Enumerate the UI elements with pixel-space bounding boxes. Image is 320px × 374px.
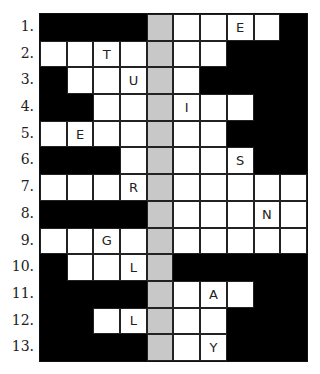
black-cell — [254, 94, 281, 121]
black-cell — [200, 254, 227, 281]
grid-cell[interactable]: R — [120, 174, 147, 201]
highlight-cell[interactable] — [147, 201, 174, 228]
grid-cell[interactable]: G — [93, 228, 120, 255]
grid-cell[interactable] — [227, 281, 254, 308]
highlight-cell[interactable] — [147, 67, 174, 94]
row-number: 1. — [0, 13, 34, 40]
black-cell — [280, 334, 307, 361]
grid-cell[interactable]: E — [227, 14, 254, 41]
grid-cell[interactable] — [173, 334, 200, 361]
grid-cell[interactable] — [173, 67, 200, 94]
grid-cell[interactable] — [254, 174, 281, 201]
grid-cell[interactable] — [200, 41, 227, 68]
black-cell — [173, 254, 200, 281]
highlight-cell[interactable] — [147, 308, 174, 335]
grid-cell[interactable] — [173, 147, 200, 174]
grid-cell[interactable] — [254, 228, 281, 255]
grid-cell[interactable] — [93, 67, 120, 94]
grid-cell[interactable] — [173, 121, 200, 148]
row-number: 5. — [0, 120, 34, 147]
row-number: 4. — [0, 93, 34, 120]
highlight-cell[interactable] — [147, 228, 174, 255]
grid-cell[interactable] — [67, 254, 94, 281]
grid-cell[interactable] — [67, 41, 94, 68]
grid-cell[interactable] — [200, 94, 227, 121]
highlight-cell[interactable] — [147, 121, 174, 148]
black-cell — [67, 94, 94, 121]
grid-cell[interactable] — [40, 41, 67, 68]
grid-cell[interactable] — [173, 41, 200, 68]
black-cell — [254, 67, 281, 94]
black-cell — [254, 308, 281, 335]
highlight-cell[interactable] — [147, 254, 174, 281]
grid-cell[interactable] — [173, 14, 200, 41]
grid-cell[interactable]: S — [227, 147, 254, 174]
grid-cell[interactable] — [40, 174, 67, 201]
row-number: 6. — [0, 146, 34, 173]
grid-cell[interactable]: Y — [200, 334, 227, 361]
grid-cell[interactable] — [200, 147, 227, 174]
grid-cell[interactable]: N — [254, 201, 281, 228]
grid-cell[interactable] — [173, 174, 200, 201]
grid-cell[interactable] — [93, 174, 120, 201]
grid-cell[interactable] — [93, 254, 120, 281]
grid-cell[interactable] — [227, 174, 254, 201]
highlight-cell[interactable] — [147, 41, 174, 68]
row-number: 9. — [0, 227, 34, 254]
grid-cell[interactable] — [120, 147, 147, 174]
row-number: 12. — [0, 307, 34, 334]
grid-cell[interactable] — [280, 228, 307, 255]
grid-cell[interactable] — [173, 308, 200, 335]
grid-cell[interactable]: E — [67, 121, 94, 148]
grid-cell[interactable] — [200, 228, 227, 255]
grid-cell[interactable] — [254, 14, 281, 41]
grid-cell[interactable] — [93, 308, 120, 335]
black-cell — [93, 14, 120, 41]
grid-cell[interactable] — [200, 174, 227, 201]
black-cell — [67, 308, 94, 335]
highlight-cell[interactable] — [147, 334, 174, 361]
row-number: 3. — [0, 66, 34, 93]
grid-cell[interactable] — [93, 94, 120, 121]
grid-cell[interactable] — [93, 121, 120, 148]
grid-cell[interactable] — [200, 14, 227, 41]
grid-cell[interactable]: L — [120, 308, 147, 335]
highlight-cell[interactable] — [147, 147, 174, 174]
black-cell — [280, 121, 307, 148]
grid-cell[interactable] — [227, 228, 254, 255]
grid-cell[interactable] — [120, 94, 147, 121]
black-cell — [227, 67, 254, 94]
grid-cell[interactable] — [67, 228, 94, 255]
grid-cell[interactable]: L — [120, 254, 147, 281]
grid-cell[interactable] — [40, 228, 67, 255]
grid-cell[interactable] — [200, 308, 227, 335]
grid-cell[interactable] — [67, 174, 94, 201]
grid-cell[interactable] — [173, 228, 200, 255]
highlight-cell[interactable] — [147, 281, 174, 308]
grid-cell[interactable] — [120, 41, 147, 68]
grid-cell[interactable] — [227, 94, 254, 121]
grid-cell[interactable] — [280, 174, 307, 201]
grid-cell[interactable] — [120, 228, 147, 255]
grid-cell[interactable] — [200, 121, 227, 148]
row-number: 10. — [0, 253, 34, 280]
black-cell — [254, 281, 281, 308]
highlight-cell[interactable] — [147, 14, 174, 41]
highlight-cell[interactable] — [147, 94, 174, 121]
grid-cell[interactable] — [227, 201, 254, 228]
grid-cell[interactable] — [120, 121, 147, 148]
black-cell — [93, 201, 120, 228]
grid-cell[interactable]: T — [93, 41, 120, 68]
grid-cell[interactable]: A — [200, 281, 227, 308]
grid-cell[interactable] — [40, 121, 67, 148]
grid-cell[interactable] — [173, 281, 200, 308]
row-number-column: 1.2.3.4.5.6.7.8.9.10.11.12.13. — [0, 13, 34, 360]
row-number: 7. — [0, 173, 34, 200]
grid-cell[interactable] — [280, 201, 307, 228]
grid-cell[interactable]: U — [120, 67, 147, 94]
grid-cell[interactable] — [173, 201, 200, 228]
grid-cell[interactable]: I — [173, 94, 200, 121]
highlight-cell[interactable] — [147, 174, 174, 201]
grid-cell[interactable] — [67, 67, 94, 94]
grid-cell[interactable] — [200, 201, 227, 228]
